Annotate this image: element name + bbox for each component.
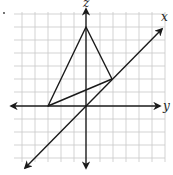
y-axis-label: y: [162, 99, 170, 113]
z-axis-label: z: [82, 0, 90, 10]
dot-marker: [3, 12, 5, 14]
x-axis: [25, 29, 162, 168]
coordinate-diagram: z x y: [0, 0, 173, 175]
x-axis-label: x: [161, 10, 168, 24]
triangle: [48, 27, 112, 106]
